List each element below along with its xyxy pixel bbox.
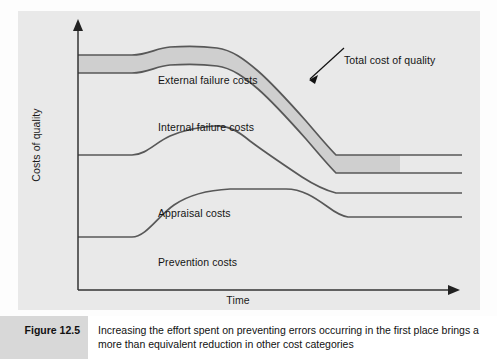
figure-number: Figure 12.5 [0, 324, 80, 336]
figure-page: Costs of quality Time External failure c… [0, 0, 497, 359]
figure-caption-strip: Figure 12.5 Increasing the effort spent … [0, 316, 497, 359]
total-cost-annotation-arrow [309, 48, 344, 84]
band-label-internal-failure-costs: Internal failure costs [158, 121, 254, 133]
chart-panel: Costs of quality Time External failure c… [18, 11, 480, 310]
y-axis-label: Costs of quality [30, 95, 42, 195]
figure-caption-text: Increasing the effort spent on preventin… [98, 323, 490, 351]
band-label-prevention-costs: Prevention costs [158, 256, 237, 268]
x-axis-label: Time [18, 294, 458, 306]
annotation-total-cost-of-quality: Total cost of quality [344, 54, 435, 66]
curve-prevention-costs [78, 189, 462, 237]
band-label-external-failure-costs: External failure costs [158, 74, 258, 86]
curve-internal-failure-costs [78, 64, 462, 173]
band-label-appraisal-costs: Appraisal costs [158, 207, 231, 219]
figure-tag-background [0, 316, 88, 359]
curve-appraisal-costs [78, 126, 462, 193]
